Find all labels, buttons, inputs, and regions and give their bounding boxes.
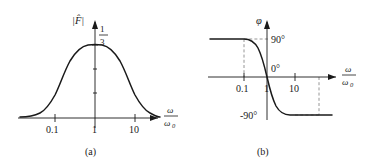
- panel-a-xtick-1: 1: [92, 124, 97, 135]
- panel-b-ytick-plus90: 90°: [271, 34, 285, 45]
- svg-text:ω: ω: [345, 64, 351, 74]
- panel-b-caption: (b): [257, 146, 269, 158]
- panel-a-xtick-2: 10: [129, 124, 139, 135]
- panel-b-xtick-2: 10: [289, 83, 299, 94]
- panel-a-svg: 1 3 |F̂| 0.1 1 10 ω ω 0 (a): [0, 0, 190, 163]
- panel-b-y-axis-label: φ: [256, 15, 262, 26]
- panel-a-magnitude-plot: 1 3 |F̂| 0.1 1 10 ω ω 0 (a): [0, 0, 190, 163]
- panel-a-caption: (a): [85, 146, 96, 158]
- panel-a-xtick-0: 0.1: [46, 124, 59, 135]
- panel-a-x-axis-label: ω ω 0: [164, 105, 178, 129]
- svg-text:ω: ω: [342, 77, 348, 87]
- panel-b-xtick-1: 1: [264, 83, 269, 94]
- panel-b-x-axis: [208, 74, 336, 80]
- panel-b-ytick-zero: 0°: [271, 63, 280, 74]
- panel-b-phase-plot: φ 90° 0° -90° 0.1 1 10 ω ω 0 (b): [190, 0, 368, 163]
- svg-text:0: 0: [172, 122, 176, 129]
- panel-a-peak-value-label: 1 3: [99, 24, 108, 47]
- figure-container: 1 3 |F̂| 0.1 1 10 ω ω 0 (a): [0, 0, 368, 163]
- svg-text:ω: ω: [167, 105, 173, 115]
- panel-b-x-axis-label: ω ω 0: [342, 64, 356, 88]
- svg-text:0: 0: [350, 81, 354, 88]
- panel-a-x-axis: [18, 115, 158, 121]
- panel-a-y-axis: [92, 20, 98, 128]
- panel-b-ytick-minus90: -90°: [240, 110, 257, 121]
- panel-b-svg: φ 90° 0° -90° 0.1 1 10 ω ω 0 (b): [190, 0, 368, 163]
- svg-text:ω: ω: [164, 118, 170, 128]
- panel-a-y-axis-label: |F̂|: [72, 14, 84, 26]
- svg-text:3: 3: [100, 37, 105, 47]
- panel-b-xtick-0: 0.1: [236, 83, 249, 94]
- panel-a-magnitude-curve: [20, 45, 160, 118]
- svg-text:1: 1: [100, 24, 105, 34]
